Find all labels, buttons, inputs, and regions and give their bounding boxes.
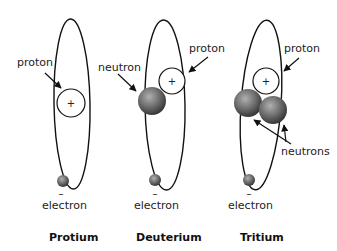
neutron-2 [259,96,287,124]
electron [149,174,161,186]
electron-minus-sign: – [59,188,64,199]
atom-deuterium: + neutron proton – electron Deuterium [98,20,225,244]
electron-label: electron [42,199,87,212]
proton-arrow [189,57,208,72]
neutrons-label: neutrons [281,145,330,158]
proton-plus-sign: + [168,76,176,87]
electron-label: electron [228,199,273,212]
neutron-arrow [118,74,136,91]
isotopes-diagram: + proton – electron Protium + neutron pr… [0,0,337,251]
electron [57,175,69,187]
atom-title-deuterium: Deuterium [136,231,202,244]
proton-plus-sign: + [262,76,270,87]
proton-plus-sign: + [67,98,75,109]
electron-minus-sign: – [247,188,252,199]
proton-label: proton [189,42,225,55]
atom-title-tritium: Tritium [240,231,284,244]
neutron-label: neutron [98,61,141,74]
electron [243,174,255,186]
atom-tritium: + proton neutrons – electron Tritium [228,19,330,244]
electron-label: electron [134,199,179,212]
proton-label: proton [284,42,320,55]
electron-minus-sign: – [153,188,158,199]
atom-title-protium: Protium [49,231,98,244]
atom-protium: + proton – electron Protium [17,19,98,244]
neutron [138,87,166,115]
proton-arrow [284,58,299,71]
proton-label: proton [17,56,53,69]
neutron-1 [234,89,262,117]
proton-arrow [45,73,61,88]
